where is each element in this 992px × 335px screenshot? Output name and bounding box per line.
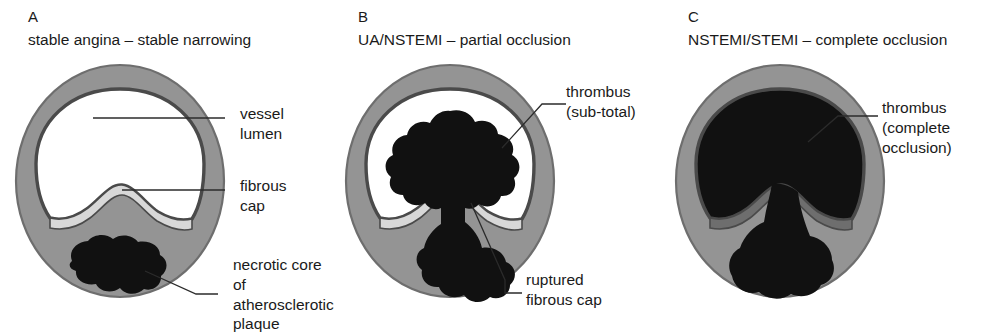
panel-b: B UA/NSTEMI – partial occlusion thrombus… xyxy=(330,0,660,335)
panel-c: C NSTEMI/STEMI – complete occlusion thro… xyxy=(660,0,992,335)
label-necrotic-core: necrotic core of atherosclerotic plaque xyxy=(233,255,334,334)
panel-a: A stable angina – stable narrowing vesse… xyxy=(0,0,330,335)
panel-b-letter: B xyxy=(358,9,368,24)
panel-c-letter: C xyxy=(688,9,699,24)
label-fibrous-cap: fibrous cap xyxy=(240,176,287,216)
label-ruptured-fibrous-cap: ruptured fibrous cap xyxy=(526,270,602,310)
panel-c-caption: NSTEMI/STEMI – complete occlusion xyxy=(688,31,947,49)
label-thrombus-subtotal: thrombus (sub-total) xyxy=(566,82,636,122)
panel-a-letter: A xyxy=(28,9,38,24)
label-thrombus-complete: thrombus (complete occlusion) xyxy=(882,98,952,157)
panel-a-caption: stable angina – stable narrowing xyxy=(28,31,251,49)
label-vessel-lumen: vessel lumen xyxy=(240,104,284,144)
panel-b-caption: UA/NSTEMI – partial occlusion xyxy=(358,31,571,49)
